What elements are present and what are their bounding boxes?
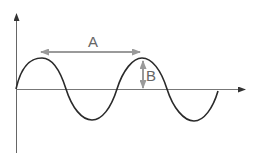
wavelength-label: A <box>88 33 98 50</box>
sine-wave-diagram: A B <box>0 0 255 161</box>
amplitude-label: B <box>146 67 156 84</box>
